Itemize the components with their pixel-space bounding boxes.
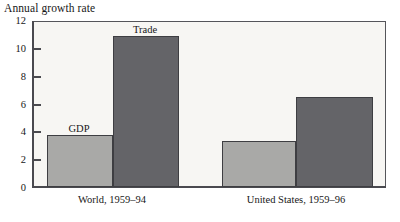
group-caption-2: United States, 1959–96 xyxy=(186,194,400,206)
y-axis-tick-label: 6 xyxy=(0,100,26,111)
bar-label-trade: Trade xyxy=(112,24,178,35)
bar-trade-group-2 xyxy=(296,97,373,187)
y-axis-tick-label: 8 xyxy=(0,72,26,83)
bar-gdp-group-1 xyxy=(47,135,113,187)
y-axis-tick-label: 2 xyxy=(0,155,26,166)
plot-area xyxy=(32,21,386,188)
bar-gdp-group-2 xyxy=(222,141,296,187)
chart-title: Annual growth rate xyxy=(4,1,95,15)
y-axis-tick-label: 0 xyxy=(0,183,26,194)
y-axis-tick-label: 12 xyxy=(0,16,26,27)
y-axis-tick-label: 10 xyxy=(0,44,26,55)
bar-label-gdp: GDP xyxy=(46,123,112,134)
bar-trade-group-1 xyxy=(113,36,179,187)
y-axis-tick-label: 4 xyxy=(0,127,26,138)
bars-layer xyxy=(33,22,385,187)
bar-chart-figure: Annual growth rate 024681012 GDPTrade Wo… xyxy=(0,0,400,222)
